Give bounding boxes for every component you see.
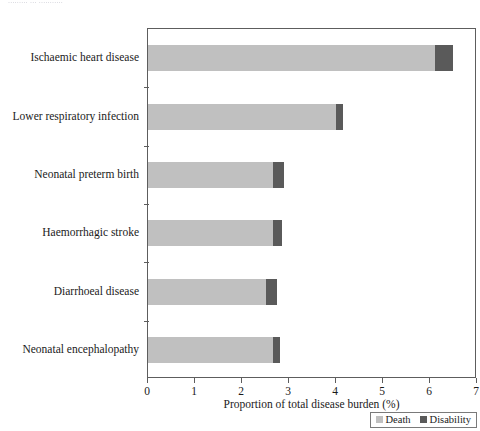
- x-axis-tick: [382, 378, 383, 383]
- x-axis-tick-label: 2: [238, 385, 244, 397]
- legend-swatch-disability-icon: [420, 416, 427, 423]
- y-axis-tick: [144, 146, 149, 147]
- x-axis-tick-label: 5: [379, 385, 385, 397]
- bar-row: [148, 337, 280, 363]
- bar-segment-disability: [273, 220, 282, 246]
- bar-row: [148, 220, 282, 246]
- x-axis-tick: [288, 378, 289, 383]
- y-axis-label: Lower respiratory infection: [0, 110, 139, 122]
- x-axis-tick-label: 4: [332, 385, 338, 397]
- bar-segment-death: [148, 279, 266, 305]
- y-axis-label: Neonatal encephalopathy: [0, 343, 139, 355]
- bar-segment-disability: [336, 104, 343, 130]
- y-axis-label: Diarrhoeal disease: [0, 285, 139, 297]
- x-axis-tick-label: 6: [426, 385, 432, 397]
- bar-row: [148, 162, 284, 188]
- bar-segment-disability: [435, 45, 454, 71]
- y-axis-label: Neonatal preterm birth: [0, 168, 139, 180]
- y-axis-tick: [144, 204, 149, 205]
- x-axis-tick: [241, 378, 242, 383]
- x-axis-tick-label: 0: [144, 385, 150, 397]
- bar-segment-death: [148, 337, 273, 363]
- x-axis-tick-label: 3: [285, 385, 291, 397]
- plot-area: [147, 28, 476, 378]
- bar-segment-death: [148, 45, 435, 71]
- x-axis-ticks: 01234567: [147, 378, 476, 379]
- y-axis-tick: [144, 87, 149, 88]
- bar-row: [148, 45, 453, 71]
- legend-label-disability: Disability: [430, 415, 471, 426]
- bars-layer: [148, 29, 475, 377]
- bar-segment-death: [148, 220, 273, 246]
- bar-segment-disability: [266, 279, 278, 305]
- bar-segment-disability: [273, 337, 280, 363]
- bar-segment-death: [148, 162, 273, 188]
- x-axis-title: Proportion of total disease burden (%): [147, 398, 476, 410]
- legend-item-disability: Disability: [420, 415, 471, 426]
- legend-item-death: Death: [376, 415, 411, 426]
- x-axis-tick: [194, 378, 195, 383]
- figure-container: ......... ... ........... Ischaemic hear…: [0, 0, 480, 431]
- x-axis-tick-label: 7: [473, 385, 479, 397]
- x-axis-tick: [476, 378, 477, 383]
- y-axis-label: Ischaemic heart disease: [0, 51, 139, 63]
- chart-legend: Death Disability: [370, 412, 478, 429]
- y-axis-tick: [144, 321, 149, 322]
- bar-segment-death: [148, 104, 336, 130]
- y-axis-tick: [144, 262, 149, 263]
- legend-label-death: Death: [386, 415, 411, 426]
- legend-swatch-death-icon: [376, 416, 383, 423]
- x-axis-tick-label: 1: [191, 385, 197, 397]
- bar-segment-disability: [273, 162, 285, 188]
- y-axis-labels: Ischaemic heart diseaseLower respiratory…: [0, 0, 143, 431]
- x-axis-tick: [429, 378, 430, 383]
- x-axis-tick: [147, 378, 148, 383]
- bar-row: [148, 104, 343, 130]
- y-axis-label: Haemorrhagic stroke: [0, 226, 139, 238]
- x-axis-tick: [335, 378, 336, 383]
- bar-row: [148, 279, 277, 305]
